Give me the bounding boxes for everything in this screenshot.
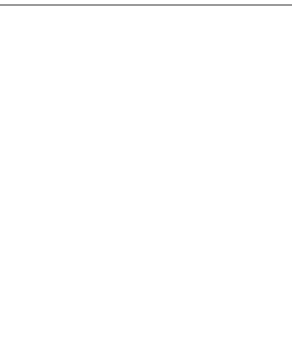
list-structure-diagram bbox=[0, 0, 292, 337]
